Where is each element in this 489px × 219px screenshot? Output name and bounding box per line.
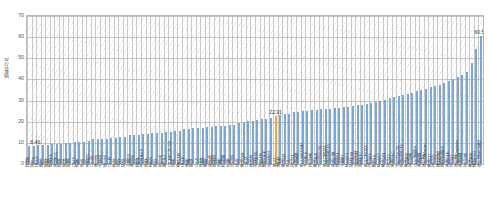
x-axis-tick-labels: 瑞虎8宋ProUNI-V朗逸缤智哈弗H6荣威RX5博越思域轩逸CS75逍客途岳名… bbox=[26, 167, 484, 219]
y-tick-label: 40 bbox=[10, 75, 24, 81]
y-tick-label: 10 bbox=[10, 139, 24, 145]
bar-chart: 销售万元 010203040506070 8.4622.9160.50 瑞虎8宋… bbox=[0, 0, 489, 219]
plot-area: 8.4622.9160.50 bbox=[26, 15, 484, 165]
y-tick-label: 20 bbox=[10, 118, 24, 124]
y-axis-tick-labels: 010203040506070 bbox=[10, 13, 24, 167]
y-tick-label: 30 bbox=[10, 97, 24, 103]
bar bbox=[471, 63, 473, 164]
bar bbox=[430, 87, 432, 164]
bar-series bbox=[27, 16, 483, 164]
value-label: 60.50 bbox=[474, 29, 484, 35]
x-tick-label: 保时捷帕拉梅拉 bbox=[478, 140, 482, 167]
bar bbox=[461, 75, 463, 164]
y-tick-label: 50 bbox=[10, 54, 24, 60]
y-tick-label: 70 bbox=[10, 12, 24, 18]
value-label: 8.46 bbox=[30, 139, 40, 145]
bar bbox=[466, 72, 468, 164]
y-tick-label: 60 bbox=[10, 33, 24, 39]
value-label: 22.91 bbox=[269, 109, 282, 115]
gridline-vertical bbox=[483, 16, 484, 164]
y-tick-label: 0 bbox=[10, 160, 24, 166]
